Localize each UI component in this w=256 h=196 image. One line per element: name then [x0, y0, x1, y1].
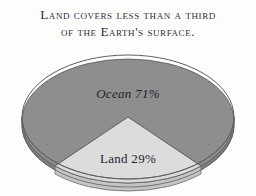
chart-area: Ocean 71% Land 29%: [0, 44, 256, 196]
pie-chart-graphic: [0, 44, 256, 196]
figure-title: Land covers less than a third of the Ear…: [0, 7, 256, 40]
pie-chart-figure: Land covers less than a third of the Ear…: [0, 0, 256, 196]
title-line-1: Land covers less than a third: [0, 7, 256, 24]
title-line-2: of the Earth's surface.: [0, 24, 256, 41]
pie-slice-label-land: Land 29%: [0, 151, 256, 167]
pie-slice-label-ocean: Ocean 71%: [0, 86, 256, 102]
